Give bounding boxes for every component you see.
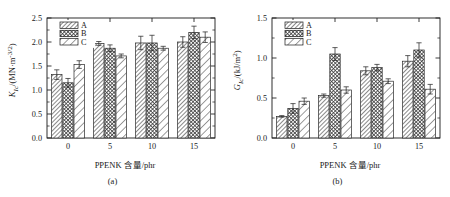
y-tick-label: 2.5 bbox=[32, 14, 42, 23]
x-tick-label: 0 bbox=[291, 142, 295, 151]
bar-b-5 bbox=[330, 54, 340, 138]
x-tick-label: 10 bbox=[373, 142, 381, 151]
x-tick-label: 15 bbox=[190, 142, 198, 151]
plot-svg-b: 0.00.51.01.5051015ABC bbox=[225, 0, 450, 160]
bar-a-5 bbox=[94, 43, 104, 138]
y-tick-label: 1.5 bbox=[32, 62, 42, 71]
y-tick-label: 1.0 bbox=[257, 54, 267, 63]
y-tick-label: 2.0 bbox=[32, 38, 42, 47]
bar-c-10 bbox=[383, 81, 393, 138]
bar-a-10 bbox=[361, 71, 371, 138]
bar-a-15 bbox=[403, 61, 413, 138]
bar-b-5 bbox=[105, 48, 115, 138]
legend: ABC bbox=[283, 20, 320, 48]
bar-c-15 bbox=[425, 89, 435, 138]
legend-swatch-c bbox=[60, 39, 78, 45]
bar-b-15 bbox=[414, 50, 424, 138]
bar-b-10 bbox=[372, 68, 382, 138]
legend-swatch-b bbox=[285, 30, 303, 36]
x-tick-label: 0 bbox=[66, 142, 70, 151]
bar-a-0 bbox=[52, 75, 62, 138]
bar-b-10 bbox=[147, 43, 157, 138]
bar-a-10 bbox=[136, 43, 146, 138]
y-tick-label: 0.0 bbox=[32, 134, 42, 143]
legend-swatch-c bbox=[285, 39, 303, 45]
chart-panel-b: GIc/(kJ/m2) 0.00.51.01.5051015ABC PPENK … bbox=[225, 0, 450, 197]
y-tick-label: 0.5 bbox=[257, 94, 267, 103]
x-axis-label-a: PPENK 含量/phr bbox=[30, 158, 220, 170]
legend-label-c: C bbox=[306, 38, 312, 47]
x-tick-label: 5 bbox=[108, 142, 112, 151]
x-tick-label: 5 bbox=[333, 142, 337, 151]
y-tick-label: 0.0 bbox=[257, 134, 267, 143]
x-tick-label: 15 bbox=[415, 142, 423, 151]
legend-swatch-a bbox=[60, 22, 78, 28]
bar-c-0 bbox=[299, 101, 309, 138]
bar-b-15 bbox=[189, 32, 199, 138]
bar-c-15 bbox=[200, 37, 210, 138]
bar-a-5 bbox=[319, 96, 329, 138]
x-tick-label: 10 bbox=[148, 142, 156, 151]
panel-caption-a: (a) bbox=[0, 176, 225, 186]
legend-label-c: C bbox=[81, 38, 87, 47]
legend-swatch-b bbox=[60, 30, 78, 36]
y-tick-label: 0.5 bbox=[32, 110, 42, 119]
bar-a-0 bbox=[277, 116, 287, 138]
y-tick-label: 1.0 bbox=[32, 86, 42, 95]
y-tick-label: 1.5 bbox=[257, 14, 267, 23]
bar-c-0 bbox=[74, 65, 84, 138]
bar-c-5 bbox=[341, 90, 351, 138]
plot-svg-a: 0.00.51.01.52.02.5051015ABC bbox=[0, 0, 225, 160]
bar-a-15 bbox=[178, 42, 188, 138]
panel-caption-b: (b) bbox=[225, 176, 450, 186]
bar-b-0 bbox=[63, 83, 73, 138]
figure-container: KIc/(MN·m-3/2) 0.00.51.01.52.02.5051015A… bbox=[0, 0, 450, 197]
legend: ABC bbox=[58, 20, 95, 48]
x-axis-label-b: PPENK 含量/phr bbox=[255, 158, 445, 170]
bar-c-5 bbox=[116, 56, 126, 138]
legend-swatch-a bbox=[285, 22, 303, 28]
chart-panel-a: KIc/(MN·m-3/2) 0.00.51.01.52.02.5051015A… bbox=[0, 0, 225, 197]
bar-c-10 bbox=[158, 48, 168, 138]
